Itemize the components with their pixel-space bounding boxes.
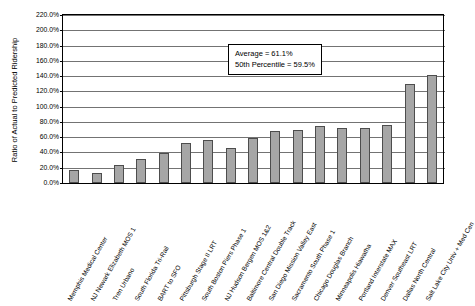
bar — [248, 138, 258, 183]
y-tick-label: 160.0% — [13, 57, 59, 65]
bar — [360, 128, 370, 183]
annotation-percentile: 50th Percentile = 59.5% — [235, 59, 315, 70]
bar-cell — [421, 15, 443, 183]
bar-cell — [264, 15, 286, 183]
x-tick-label: Memphis Medical Center — [66, 235, 109, 302]
y-tick-label: 180.0% — [13, 42, 59, 50]
y-tick-label: 100.0% — [13, 103, 59, 111]
bar-cell — [220, 15, 242, 183]
bar — [136, 159, 146, 183]
y-tick-label: 80.0% — [13, 118, 59, 126]
x-tick-label: Salt Lake City Univ + Med Cen — [424, 221, 475, 302]
x-tick-label: Tren Urbano — [111, 267, 135, 302]
bar-cell — [376, 15, 398, 183]
bar-cell — [63, 15, 85, 183]
plot-area: 220.0%200.0%180.0%160.0%140.0%120.0%100.… — [62, 14, 444, 184]
x-tick-label: Pittsburgh Stage II LRT — [178, 239, 218, 302]
bar — [203, 140, 213, 183]
bar-cell — [152, 15, 174, 183]
bar — [92, 173, 102, 183]
x-tick-label: Sacramento South Phase 1 — [290, 229, 336, 302]
y-tick-label: 60.0% — [13, 133, 59, 141]
bar-cell — [130, 15, 152, 183]
y-tick-label: 200.0% — [13, 26, 59, 34]
y-axis-title-wrapper: Ratio of Actual to Predicted Ridership — [6, 8, 20, 188]
annotation-average: Average = 61.1% — [235, 48, 315, 59]
bar — [270, 131, 280, 183]
bar — [226, 148, 236, 183]
annotation-box: Average = 61.1% 50th Percentile = 59.5% — [228, 44, 322, 75]
bar-cell — [398, 15, 420, 183]
bar — [315, 126, 325, 183]
x-tick-label: NJ Newark Elizabeth MOS 1 — [88, 226, 136, 302]
bar — [337, 128, 347, 183]
y-tick-label: 220.0% — [13, 11, 59, 19]
bar — [293, 130, 303, 183]
bar-cell — [85, 15, 107, 183]
bar-cell — [175, 15, 197, 183]
bar — [405, 84, 415, 183]
bar-cell — [331, 15, 353, 183]
bar-cell — [108, 15, 130, 183]
bar-cell — [197, 15, 219, 183]
x-tick-label: South Boston Piers Phase 1 — [200, 227, 247, 302]
x-axis-labels: Memphis Medical CenterNJ Newark Elizabet… — [62, 186, 444, 302]
bar-cell — [287, 15, 309, 183]
bar-cell — [354, 15, 376, 183]
y-tick-label: 140.0% — [13, 72, 59, 80]
bar — [382, 125, 392, 183]
bar — [114, 165, 124, 183]
bar-cell — [242, 15, 264, 183]
bar — [69, 170, 79, 183]
bar-cell — [309, 15, 331, 183]
y-tick-mark — [60, 183, 63, 184]
y-tick-label: 40.0% — [13, 148, 59, 156]
y-tick-label: 120.0% — [13, 87, 59, 95]
bar — [181, 143, 191, 183]
bar — [427, 75, 437, 183]
x-tick-label: Chicago Douglas Branch — [312, 235, 355, 302]
bar-series — [63, 15, 443, 183]
bar — [159, 153, 169, 183]
y-tick-label: 0.0% — [13, 179, 59, 187]
y-tick-label: 20.0% — [13, 164, 59, 172]
